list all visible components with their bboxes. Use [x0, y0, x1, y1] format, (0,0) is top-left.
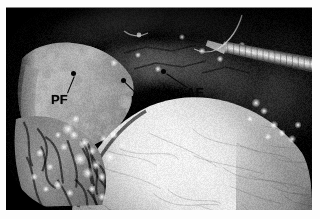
- figure-frame: PFEAF: [0, 0, 320, 219]
- plate-top-edge: [6, 7, 312, 8]
- endoscopic-image-canvas: [6, 7, 312, 210]
- endoscopic-photograph: PFEAF: [6, 7, 312, 210]
